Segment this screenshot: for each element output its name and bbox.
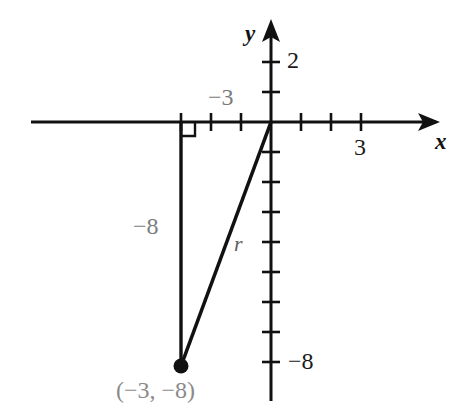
coordinate-plane-figure: y x 2 −8 3 −3 −8 r (−3, −8) <box>0 0 465 419</box>
y-leg-annotation: −8 <box>133 214 159 238</box>
y-tick-label-2: 2 <box>287 48 299 72</box>
hypotenuse-segment <box>181 122 271 366</box>
y-axis-label: y <box>245 22 255 45</box>
y-tick-label-neg8: −8 <box>288 349 314 373</box>
hypotenuse-annotation: r <box>234 233 243 255</box>
coordinate-plane-svg <box>0 0 465 419</box>
x-tick-label-3: 3 <box>354 135 366 159</box>
right-angle-marker <box>181 122 195 136</box>
x-axis-label: x <box>435 130 447 153</box>
plotted-point <box>174 359 189 374</box>
x-leg-annotation: −3 <box>208 85 234 109</box>
point-coordinate-label: (−3, −8) <box>116 378 195 402</box>
